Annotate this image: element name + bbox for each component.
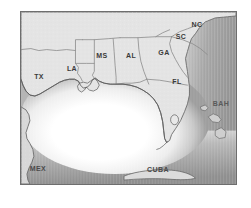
lake-okeechobee <box>171 115 179 125</box>
map-figure: TX LA MS AL GA SC NC FL MEX CUBA BAH <box>0 0 251 208</box>
map-graphic <box>21 12 236 184</box>
map-frame: TX LA MS AL GA SC NC FL MEX CUBA BAH <box>20 11 237 185</box>
